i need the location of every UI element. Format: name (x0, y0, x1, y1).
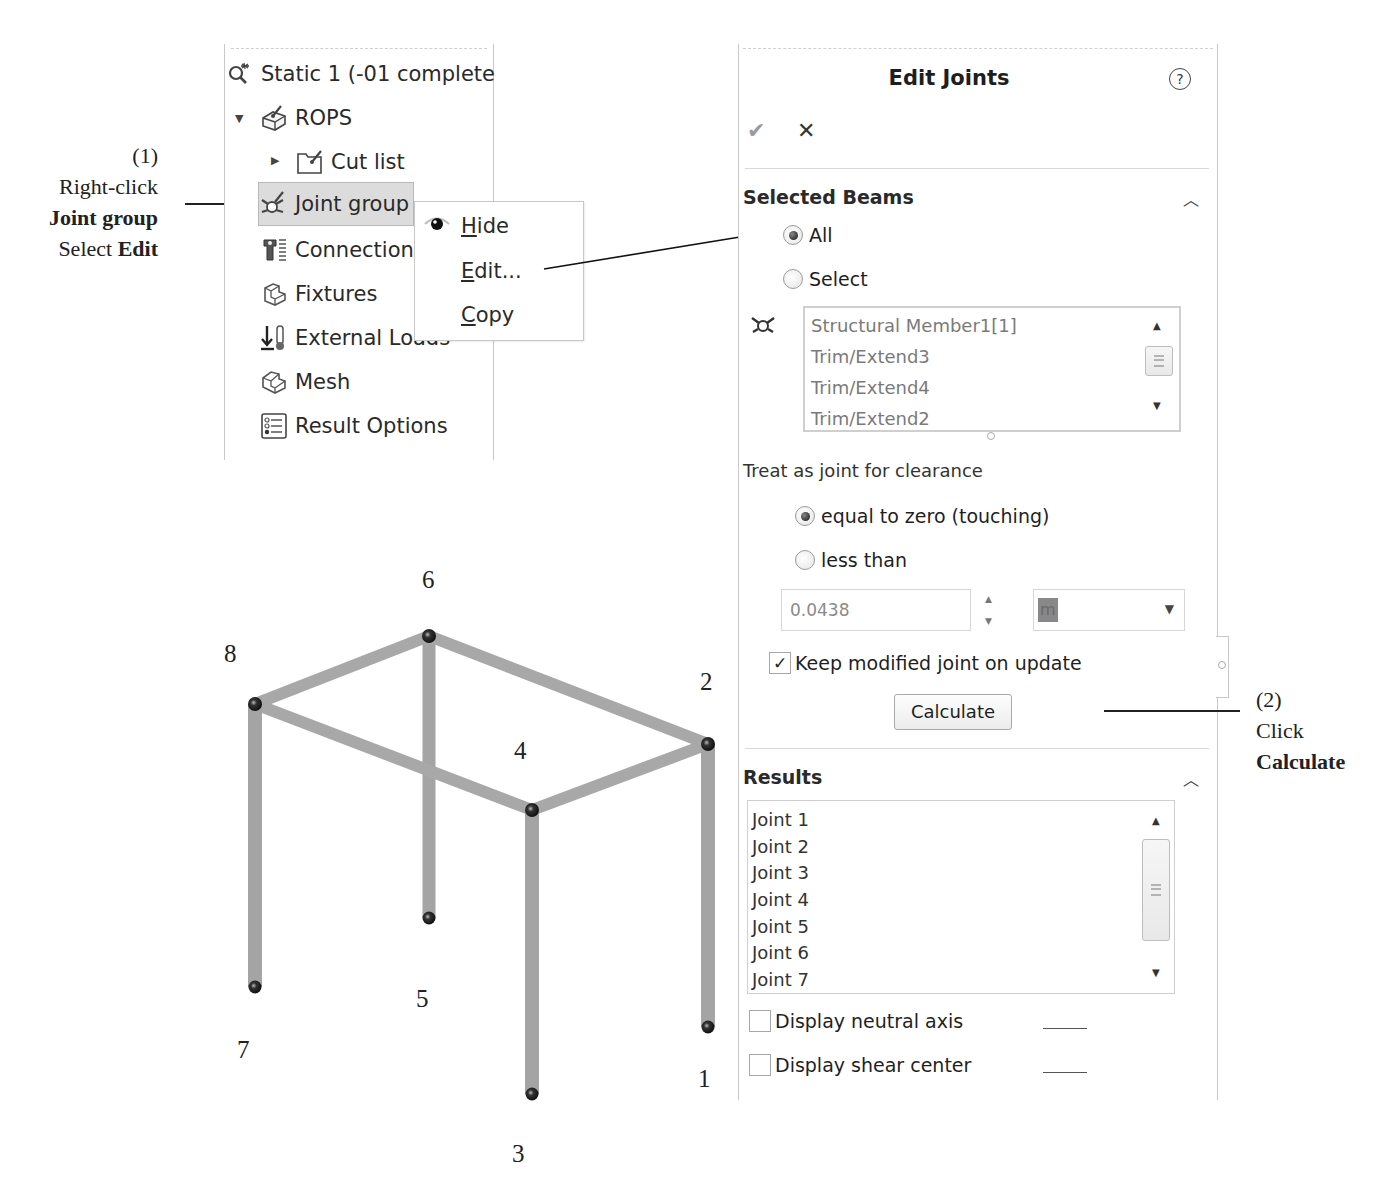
list-item[interactable]: Trim/Extend3 (811, 346, 930, 367)
keep-modified-checkbox[interactable]: ✓ (769, 652, 791, 674)
joint-label-3: 3 (512, 1140, 525, 1168)
help-icon[interactable]: ? (1169, 68, 1191, 90)
scroll-down-arrow-icon[interactable]: ▼ (1152, 967, 1160, 978)
scrollbar-thumb[interactable] (1142, 839, 1170, 941)
unit-dropdown[interactable]: m ▼ (1033, 589, 1185, 631)
section-header-selected-beams[interactable]: Selected Beams (743, 186, 914, 208)
display-neutral-axis-checkbox[interactable] (749, 1010, 771, 1032)
keep-modified-checkbox-row[interactable]: ✓ Keep modified joint on update (769, 652, 1082, 674)
clearance-value-input[interactable]: 0.0438 (781, 589, 971, 631)
collapse-chevron-up-icon[interactable]: ︿ (1183, 186, 1199, 210)
tree-item-label: Result Options (295, 414, 448, 438)
menu-item-label: dit... (474, 259, 521, 283)
result-options-icon (259, 412, 289, 440)
spin-up-arrow-icon[interactable]: ▲ (985, 594, 992, 604)
menu-item-hide[interactable]: Hide (461, 214, 509, 238)
ok-checkmark-icon[interactable]: ✔ (747, 118, 765, 143)
scroll-down-arrow-icon[interactable]: ▼ (1153, 400, 1161, 411)
radio-label: All (809, 224, 833, 246)
section-header-results[interactable]: Results (743, 766, 822, 788)
tree-item-fixtures[interactable]: Fixtures (259, 276, 377, 312)
tree-item-label: Cut list (331, 150, 405, 174)
collapse-chevron-up-icon[interactable]: ︿ (1183, 766, 1199, 790)
list-item[interactable]: Joint 3 (752, 862, 809, 883)
radio-select[interactable]: Select (783, 268, 868, 290)
radio-button-selected[interactable] (795, 506, 815, 526)
dropdown-arrow-icon[interactable]: ▼ (1165, 602, 1174, 616)
list-item[interactable]: Joint 2 (752, 836, 809, 857)
tree-item-cut-list[interactable]: Cut list (295, 144, 405, 180)
tree-item-result-options[interactable]: Result Options (259, 408, 448, 444)
joint-label-8: 8 (224, 640, 237, 668)
radio-less-than[interactable]: less than (795, 549, 907, 571)
menu-item-edit[interactable]: Edit... (461, 259, 522, 283)
tree-item-mesh[interactable]: Mesh (259, 364, 350, 400)
list-item[interactable]: Joint 4 (752, 889, 809, 910)
leader-line-step1 (185, 203, 225, 205)
display-neutral-axis-row[interactable]: Display neutral axis (749, 1010, 963, 1032)
joint-label-4: 4 (514, 737, 527, 765)
list-item[interactable]: Structural Member1[1] (811, 315, 1017, 336)
radio-label: Select (809, 268, 868, 290)
radio-all[interactable]: All (783, 224, 833, 246)
list-item[interactable]: Joint 1 (752, 809, 809, 830)
expand-caret-down-icon[interactable]: ▼ (235, 112, 243, 125)
menu-item-label: opy (476, 303, 515, 327)
joint-label-2: 2 (700, 668, 713, 696)
tree-item-connections[interactable]: Connections (259, 232, 425, 268)
step2-line2: Calculate (1256, 749, 1345, 774)
tree-item-rops[interactable]: ROPS (259, 100, 352, 136)
menu-item-copy[interactable]: Copy (461, 303, 514, 327)
menu-item-label: ide (477, 214, 509, 238)
list-item[interactable]: Trim/Extend2 (811, 408, 930, 429)
beams-listbox[interactable]: Structural Member1[1] Trim/Extend3 Trim/… (803, 306, 1181, 432)
list-item[interactable]: Joint 6 (752, 942, 809, 963)
neutral-axis-line-style[interactable] (1043, 1028, 1087, 1029)
tree-item-joint-group[interactable]: Joint group (258, 182, 414, 226)
resize-handle[interactable] (987, 432, 995, 440)
radio-button[interactable] (795, 550, 815, 570)
radio-equal-to-zero[interactable]: equal to zero (touching) (795, 505, 1049, 527)
radio-button[interactable] (783, 269, 803, 289)
checkbox-label: Display shear center (775, 1054, 971, 1076)
scrollbar-thumb[interactable] (1145, 346, 1173, 376)
joint-label-6: 6 (422, 566, 435, 594)
panel-collapse-tab[interactable] (1216, 636, 1229, 698)
tree-item-label: Connections (295, 238, 425, 262)
calculate-button[interactable]: Calculate (894, 694, 1012, 730)
annotation-step-2: (2) Click Calculate (1256, 684, 1345, 777)
arrow-edit-to-all (540, 225, 770, 275)
edit-joints-panel: Edit Joints ? ✔ ✕ Selected Beams ︿ All S… (738, 44, 1218, 1100)
unit-value: m (1038, 598, 1058, 622)
radio-button-selected[interactable] (783, 225, 803, 245)
leader-line-step2 (1104, 710, 1240, 712)
step2-line1: Click (1256, 715, 1345, 746)
step1-line3-bold: Edit (118, 236, 158, 261)
frame-model-viewport[interactable]: 1 2 3 4 5 6 7 8 (200, 560, 740, 1160)
results-listbox[interactable]: Joint 1 Joint 2 Joint 3 Joint 4 Joint 5 … (747, 800, 1175, 994)
step1-number: (1) (49, 140, 158, 171)
spin-down-arrow-icon[interactable]: ▼ (985, 616, 992, 626)
expand-caret-right-icon[interactable]: ▶ (271, 154, 279, 167)
divider (745, 748, 1209, 749)
frame-model-graphic (200, 560, 740, 1160)
list-item[interactable]: Joint 7 (752, 969, 809, 990)
cut-list-folder-icon (295, 148, 325, 176)
radio-label: less than (821, 549, 907, 571)
tree-item-static-study[interactable]: Static 1 (-01 complete (225, 56, 495, 92)
connections-icon (259, 236, 289, 264)
joint-group-icon (259, 190, 289, 218)
display-shear-center-row[interactable]: Display shear center (749, 1054, 971, 1076)
list-item[interactable]: Trim/Extend4 (811, 377, 930, 398)
scroll-up-arrow-icon[interactable]: ▲ (1153, 320, 1161, 331)
display-shear-center-checkbox[interactable] (749, 1054, 771, 1076)
cancel-x-icon[interactable]: ✕ (797, 118, 815, 143)
divider (745, 168, 1209, 169)
checkbox-label: Display neutral axis (775, 1010, 963, 1032)
scroll-up-arrow-icon[interactable]: ▲ (1152, 815, 1160, 826)
list-item[interactable]: Joint 5 (752, 916, 809, 937)
tree-top-border (231, 48, 487, 49)
panel-title: Edit Joints (739, 66, 1159, 90)
tree-item-label: ROPS (295, 106, 352, 130)
shear-center-line-style[interactable] (1043, 1072, 1087, 1073)
